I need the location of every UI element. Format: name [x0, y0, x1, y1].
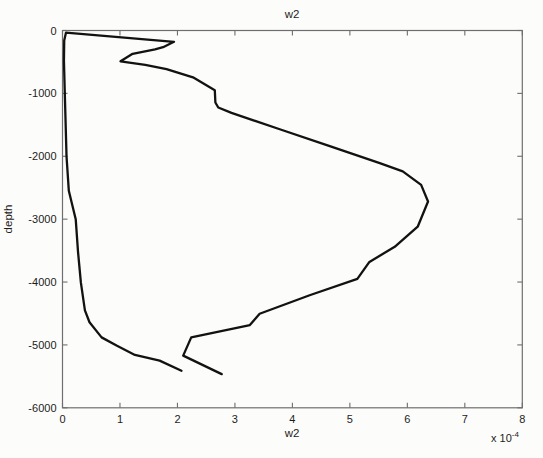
x-tick-label: 3: [232, 413, 238, 425]
x-tick-label: 7: [462, 413, 468, 425]
y-tick-label: -3000: [28, 213, 56, 225]
x-tick-label: 0: [59, 413, 65, 425]
x-tick-label: 1: [117, 413, 123, 425]
x-tick-label: 5: [347, 413, 353, 425]
x-tick-label: 6: [404, 413, 410, 425]
y-tick-label: -2000: [28, 150, 56, 162]
x-axis-multiplier: x 10-4: [491, 430, 519, 444]
y-tick-label: -1000: [28, 87, 56, 99]
x-tick-label: 4: [289, 413, 295, 425]
plot-canvas: 0123456780-1000-2000-3000-4000-5000-6000: [0, 0, 543, 458]
x-multiplier-prefix: x 10: [491, 432, 512, 444]
y-tick-label: 0: [50, 25, 56, 37]
figure: 0123456780-1000-2000-3000-4000-5000-6000…: [0, 0, 543, 458]
y-tick-label: -5000: [28, 339, 56, 351]
plot-box: [63, 31, 523, 408]
chart-title: w2: [62, 8, 522, 20]
x-multiplier-exponent: -4: [512, 430, 519, 439]
x-axis-label: w2: [62, 427, 522, 439]
data-series-line: [64, 33, 428, 374]
y-tick-label: -6000: [28, 402, 56, 414]
y-axis-label: depth: [2, 174, 14, 264]
x-tick-label: 2: [174, 413, 180, 425]
y-tick-label: -4000: [28, 276, 56, 288]
x-tick-label: 8: [519, 413, 525, 425]
